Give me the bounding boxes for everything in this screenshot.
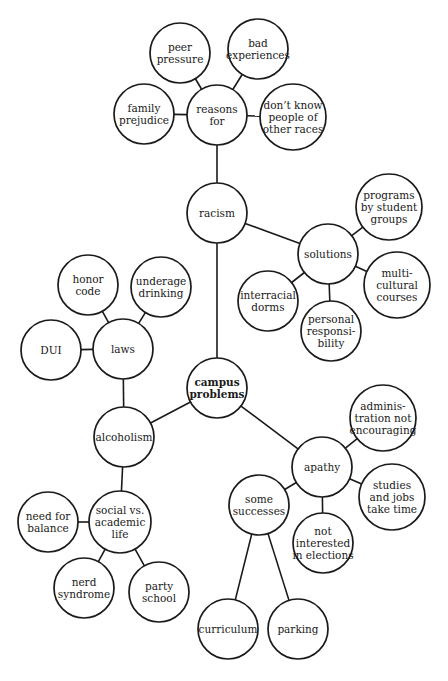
- node-label: people of: [268, 111, 318, 123]
- node-label: DUI: [40, 344, 61, 356]
- node-dui: DUI: [21, 320, 81, 380]
- node-label: academic: [95, 516, 146, 528]
- node-label: alcoholism: [96, 431, 153, 443]
- node-label: prejudice: [119, 114, 169, 126]
- node-racism: racism: [187, 183, 247, 243]
- node-label: honor: [72, 273, 104, 285]
- node-label: in elections: [292, 549, 353, 561]
- node-laws: laws: [93, 319, 153, 379]
- node-label: nerd: [72, 576, 97, 588]
- node-label: party: [145, 580, 173, 592]
- node-bad-experiences: badexperiences: [226, 19, 290, 79]
- node-label: adminis-: [360, 400, 406, 412]
- node-label: curriculum: [199, 623, 258, 635]
- node-dont-know-people: don’t knowpeople ofother races: [260, 84, 326, 150]
- node-personal-responsibility: personalresponsi-bility: [301, 301, 361, 361]
- node-label: some: [245, 493, 273, 505]
- edge-reasons-for-to-peer-pressure: [195, 79, 201, 89]
- node-label: peer: [168, 41, 193, 53]
- node-label: interested: [296, 537, 351, 549]
- node-label: reasons: [196, 103, 237, 115]
- node-label: racism: [199, 207, 235, 219]
- node-label: programs: [363, 189, 414, 201]
- node-label: parking: [277, 623, 318, 635]
- node-label: bad: [248, 37, 268, 49]
- node-interracial-dorms: interracialdorms: [238, 271, 298, 331]
- edge-apathy-to-some-successes: [285, 482, 297, 489]
- node-label: problems: [190, 388, 245, 400]
- cluster-diagram: campusproblemsracismreasonsforpeerpressu…: [0, 0, 448, 681]
- edge-social-vs-academic-life-to-nerd-syndrome: [98, 549, 105, 561]
- node-label: drinking: [138, 287, 183, 299]
- node-need-for-balance: need forbalance: [18, 492, 78, 552]
- node-some-successes: somesuccesses: [229, 475, 289, 535]
- node-label: dorms: [251, 301, 284, 313]
- node-nerd-syndrome: nerdsyndrome: [54, 558, 114, 618]
- node-label: don’t know: [263, 99, 322, 111]
- node-reasons-for: reasonsfor: [187, 85, 247, 145]
- node-label: successes: [233, 505, 286, 517]
- node-programs-by-student-groups: programsby studentgroups: [356, 174, 422, 240]
- edge-some-successes-to-parking: [268, 534, 289, 601]
- node-curriculum: curriculum: [198, 599, 258, 659]
- nodes-layer: campusproblemsracismreasonsforpeerpressu…: [18, 19, 430, 659]
- node-administration-not-encouraging: adminis-tration notencouraging: [350, 385, 417, 451]
- node-label: studies: [373, 479, 411, 491]
- node-label: school: [142, 592, 177, 604]
- edge-alcoholism-to-social-vs-academic-life: [121, 467, 122, 491]
- node-label: tration not: [355, 412, 413, 424]
- edge-solutions-to-interracial-dorms: [292, 272, 305, 282]
- edge-reasons-for-to-bad-experiences: [233, 74, 242, 89]
- node-label: take time: [367, 503, 417, 515]
- node-social-vs-academic-life: social vs.academiclife: [89, 491, 151, 553]
- node-label: cultural: [376, 279, 418, 291]
- node-studies-and-jobs: studiesand jobstake time: [359, 464, 425, 530]
- node-family-prejudice: familyprejudice: [114, 84, 174, 144]
- node-label: apathy: [304, 461, 340, 473]
- node-label: for: [209, 115, 225, 127]
- node-peer-pressure: peerpressure: [150, 23, 210, 83]
- node-label: syndrome: [58, 588, 110, 600]
- node-multicultural-courses: multi-culturalcourses: [364, 252, 430, 318]
- node-label: multi-: [381, 267, 413, 279]
- edge-apathy-to-administration-not-encouraging: [345, 439, 357, 449]
- node-label: groups: [371, 213, 408, 225]
- node-honor-code: honorcode: [58, 255, 118, 315]
- edge-apathy-to-studies-and-jobs: [350, 479, 362, 484]
- node-alcoholism: alcoholism: [94, 407, 154, 467]
- node-label: experiences: [226, 49, 290, 61]
- node-underage-drinking: underagedrinking: [131, 257, 191, 317]
- edge-campus-problems-to-apathy: [241, 406, 298, 449]
- node-label: need for: [26, 510, 71, 522]
- node-label: by student: [361, 201, 418, 213]
- node-label: balance: [27, 522, 68, 534]
- node-label: pressure: [157, 53, 204, 65]
- node-label: family: [128, 102, 161, 114]
- node-label: underage: [136, 275, 187, 287]
- edge-campus-problems-to-alcoholism: [151, 402, 191, 423]
- edge-solutions-to-multicultural-courses: [355, 266, 367, 271]
- node-not-interested-in-elections: notinterestedin elections: [292, 513, 353, 573]
- node-label: not: [314, 525, 332, 537]
- node-label: other races: [263, 123, 324, 135]
- node-solutions: solutions: [298, 224, 358, 284]
- edge-some-successes-to-curriculum: [235, 534, 251, 600]
- node-label: life: [112, 528, 129, 540]
- edge-racism-to-solutions: [245, 223, 300, 243]
- node-label: solutions: [304, 248, 352, 260]
- node-label: interracial: [240, 289, 296, 301]
- edge-solutions-to-personal-responsibility: [329, 284, 330, 301]
- node-label: and jobs: [370, 491, 415, 503]
- node-label: laws: [111, 343, 135, 355]
- node-apathy: apathy: [292, 437, 352, 497]
- node-label: personal: [308, 313, 355, 325]
- node-parking: parking: [268, 599, 328, 659]
- edge-laws-to-honor-code: [102, 311, 108, 322]
- edge-solutions-to-programs-by-student-groups: [352, 227, 363, 236]
- node-label: courses: [377, 291, 418, 303]
- edge-laws-to-underage-drinking: [139, 313, 146, 324]
- node-label: responsi-: [307, 325, 356, 337]
- node-party-school: partyschool: [129, 562, 189, 622]
- node-label: campus: [194, 376, 239, 388]
- node-label: encouraging: [350, 424, 417, 436]
